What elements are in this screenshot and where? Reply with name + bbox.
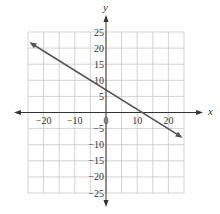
line-arrow-end-icon [175, 132, 182, 138]
y-axis-label: y [102, 1, 108, 13]
x-tick-label: 0 [104, 115, 109, 126]
y-tick-label: 25 [94, 27, 104, 38]
x-axis-label: x [207, 105, 213, 117]
arrow-right-icon [196, 110, 203, 115]
arrow-left-icon [14, 110, 21, 115]
y-tick-label: −10 [88, 139, 104, 150]
coordinate-plane: −20−1001020252015105−5−10−15−20−25 x y [0, 0, 220, 214]
y-tick-label: −20 [88, 171, 104, 182]
x-tick-label: 10 [132, 115, 142, 126]
y-tick-label: 20 [94, 43, 104, 54]
y-tick-label: −15 [88, 155, 104, 166]
y-tick-label: 15 [94, 59, 104, 70]
arrow-down-icon [104, 200, 109, 207]
arrow-up-icon [104, 15, 109, 22]
y-tick-label: −5 [93, 123, 104, 134]
x-tick-label: −20 [36, 115, 52, 126]
x-tick-label: 20 [163, 115, 173, 126]
line-arrow-start-icon [29, 42, 36, 48]
y-axis [104, 15, 109, 207]
y-tick-label: 5 [99, 91, 104, 102]
x-tick-label: −10 [67, 115, 83, 126]
y-tick-label: −25 [88, 188, 104, 199]
